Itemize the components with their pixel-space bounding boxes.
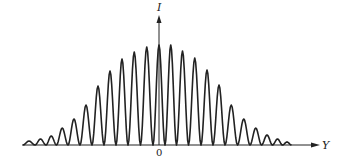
x-axis-label: Y [322, 140, 329, 151]
x-axis-arrow-icon [311, 143, 320, 148]
interference-pattern-figure [0, 0, 348, 162]
y-axis-arrow-icon [157, 15, 162, 23]
intensity-curve [23, 45, 292, 145]
y-axis-label: I [157, 2, 161, 13]
origin-label: 0 [156, 148, 162, 158]
